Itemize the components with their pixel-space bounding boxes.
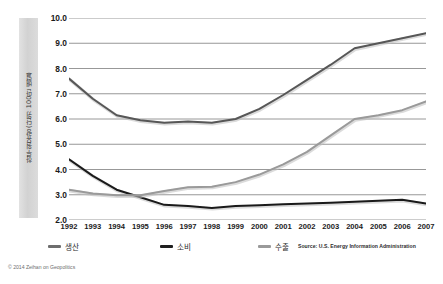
chart-figure: 하루 원유량 (단위: 100만 배럴) 10.09.08.07.06.05.0…	[0, 0, 443, 284]
x-tick-label: 1998	[203, 222, 220, 231]
x-tick-label: 2003	[322, 222, 339, 231]
y-tick-label: 3.0	[33, 190, 67, 200]
x-tick-label: 1997	[180, 222, 197, 231]
y-tick-label: 8.0	[33, 64, 67, 74]
x-tick-label: 2006	[394, 222, 411, 231]
legend-label: 수출	[275, 241, 289, 252]
legend-swatch-icon	[160, 245, 173, 248]
chart-legend: 생산소비수출	[40, 241, 310, 255]
legend-item-생산[interactable]: 생산	[48, 241, 79, 252]
legend-label: 소비	[177, 241, 191, 252]
series-line-소비	[69, 159, 426, 207]
legend-item-수출[interactable]: 수출	[258, 241, 289, 252]
legend-label: 생산	[65, 241, 79, 252]
x-tick-label: 1996	[156, 222, 173, 231]
y-tick-label: 7.0	[33, 89, 67, 99]
x-tick-label: 2007	[418, 222, 435, 231]
x-tick-label: 2002	[299, 222, 316, 231]
y-tick-label: 10.0	[33, 13, 67, 23]
source-note: Source: U.S. Energy Information Administ…	[298, 243, 416, 249]
legend-item-소비[interactable]: 소비	[160, 241, 191, 252]
x-axis-tick-labels: 1992199319941995199619971998199920002001…	[69, 222, 426, 236]
y-tick-label: 6.0	[33, 114, 67, 124]
legend-swatch-icon	[48, 245, 61, 248]
x-tick-label: 1992	[61, 222, 78, 231]
plot-svg	[69, 18, 426, 220]
plot-area	[69, 18, 426, 220]
x-tick-label: 1994	[108, 222, 125, 231]
legend-swatch-icon	[258, 245, 271, 248]
copyright-credit: © 2014 Zeihan on Geopolitics	[8, 264, 75, 270]
series-halo-생산	[70, 34, 426, 124]
x-tick-label: 1993	[84, 222, 101, 231]
x-tick-label: 1999	[227, 222, 244, 231]
x-tick-label: 2001	[275, 222, 292, 231]
x-tick-label: 1995	[132, 222, 149, 231]
y-tick-label: 5.0	[33, 139, 67, 149]
x-tick-label: 2005	[370, 222, 387, 231]
y-tick-label: 4.0	[33, 165, 67, 175]
y-axis-tick-labels: 10.09.08.07.06.05.04.03.02.0	[31, 18, 67, 220]
x-tick-label: 2004	[346, 222, 363, 231]
y-tick-label: 9.0	[33, 38, 67, 48]
x-tick-label: 2000	[251, 222, 268, 231]
